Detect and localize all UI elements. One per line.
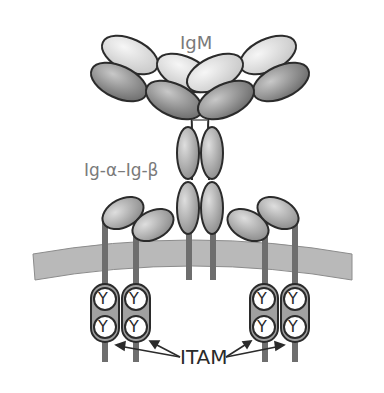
igm-label: IgM [180,32,212,53]
fc-domain [201,127,223,179]
tyrosine-label: Y [257,317,267,336]
igm-fc-stem [177,127,223,234]
itam-boxes [91,284,309,342]
cell-membrane [33,240,352,280]
fc-domain [177,182,199,234]
ig-alpha-beta-domains [97,190,304,247]
tyrosine-label: Y [129,317,139,336]
fc-domain [177,127,199,179]
tyrosine-label: Y [288,317,298,336]
tyrosine-label: Y [129,289,139,308]
tyrosine-label: Y [98,289,108,308]
tyrosine-label: Y [288,289,298,308]
bcr-complex-diagram [0,0,384,393]
fc-domain [201,182,223,234]
ig-alpha-beta-label: Ig-α–Ig-β [84,160,158,180]
tyrosine-label: Y [257,289,267,308]
tyrosine-label: Y [98,317,108,336]
itam-label: ITAM [180,345,228,369]
